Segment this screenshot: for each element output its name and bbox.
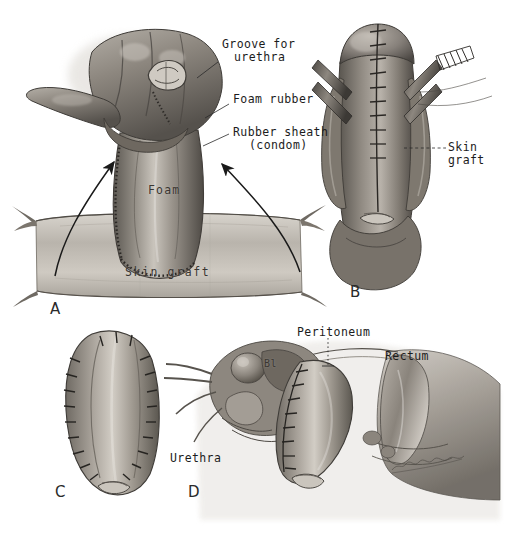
panel-letter-a: A <box>50 300 61 318</box>
panel-letter-c: C <box>55 483 66 501</box>
graft-flap-right <box>406 78 430 211</box>
bladder-art <box>231 353 265 383</box>
panel-letter-b: B <box>350 283 361 301</box>
label-groove-for-urethra: Groove forurethra <box>222 38 295 64</box>
label-sheath-line2: (condom) <box>249 139 308 152</box>
label-sheath-line1: Rubber sheath <box>233 125 328 139</box>
label-skin-graft-b: Skingraft <box>448 141 485 167</box>
label-groove-line1: Groove for <box>222 37 295 51</box>
leader-groove <box>197 62 218 78</box>
implanted-graft-art <box>276 360 353 488</box>
label-foam-overlay: Foam <box>148 183 181 197</box>
arrow-right <box>222 164 300 272</box>
hand-art <box>26 29 222 152</box>
leader-sheath <box>203 134 229 146</box>
label-peritoneum: Peritoneum <box>297 326 370 339</box>
leader-foam-rubber <box>205 104 229 118</box>
panel-d-artwork <box>164 338 500 520</box>
label-groove-line2: urethra <box>234 51 285 64</box>
foam-core-shaft-art <box>113 130 203 278</box>
artist-signature <box>392 456 464 473</box>
suture-marks-c <box>64 332 157 480</box>
plate-artwork <box>0 0 505 533</box>
foam-rubber-plug-art <box>148 61 186 124</box>
label-skin-graft-sheet: Skin graft <box>125 265 210 279</box>
label-bladder: Bl <box>264 358 277 369</box>
suture-line-b <box>370 24 386 212</box>
label-urethra: Urethra <box>170 452 221 465</box>
label-foam-rubber: Foam rubber <box>233 93 314 106</box>
arrow-left <box>55 162 114 276</box>
skin-graft-sheet-art <box>12 205 327 307</box>
clamps-art <box>312 46 492 124</box>
pelvic-viscera-art <box>164 341 326 442</box>
label-rectum: Rectum <box>385 350 429 363</box>
label-rubber-sheath: Rubber sheath(condom) <box>233 126 328 152</box>
label-skin-graft-b-line2: graft <box>448 153 485 167</box>
illustration-plate: Groove forurethra Foam rubber Rubber she… <box>0 0 505 533</box>
panel-letter-d: D <box>188 483 200 501</box>
panel-c-artwork <box>64 331 159 495</box>
